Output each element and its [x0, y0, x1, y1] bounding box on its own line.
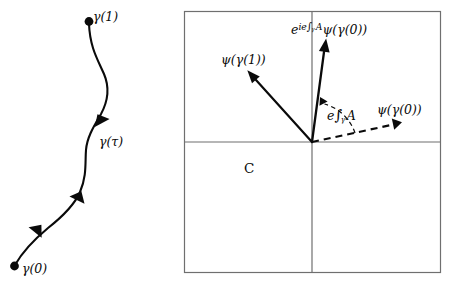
phase-rotated-psi-vector-arrowhead	[319, 38, 332, 53]
path-direction-arrowhead-3	[90, 110, 110, 127]
phase-operand-psi: ψ(γ(0))	[323, 22, 368, 37]
gamma-tau-label: γ(τ)	[99, 136, 123, 149]
psi-gamma-0-vector-arrowhead	[392, 117, 403, 130]
psi-gamma-1-vector-shaft	[256, 80, 312, 142]
gamma-1-label: γ(1)	[93, 11, 118, 24]
connection-A: A	[316, 21, 323, 32]
phase-angle-label: e∫γA	[327, 108, 356, 123]
figure-graphics	[0, 0, 451, 288]
gamma-path-curve	[15, 24, 108, 265]
phase-rotated-psi-label: eie∫γAψ(γ(0))	[291, 24, 367, 37]
path-direction-arrowhead-2	[69, 187, 88, 203]
complex-plane-label: C	[244, 162, 254, 176]
angle-connection-A: A	[347, 108, 356, 123]
psi-gamma-0-vector-shaft	[312, 125, 391, 142]
phase-exponent: ie∫γA	[298, 21, 322, 32]
path-curve-group	[15, 24, 108, 265]
path-direction-arrowhead-1	[29, 220, 48, 238]
gamma-0-endpoint-dot	[10, 262, 19, 271]
figure-canvas: γ(1) γ(τ) γ(0) ψ(γ(1)) ψ(γ(0)) eie∫γAψ(γ…	[0, 0, 451, 288]
phase-exponent-ie: ie	[298, 21, 306, 32]
angle-integral-subscript-gamma: γ	[341, 115, 346, 124]
psi-gamma-0-label: ψ(γ(0))	[377, 104, 422, 117]
phase-rotated-psi-vector-shaft	[312, 52, 324, 142]
gamma-0-label: γ(0)	[22, 263, 47, 276]
psi-gamma-1-label: ψ(γ(1))	[221, 54, 266, 67]
integral-subscript-gamma: γ	[311, 26, 314, 32]
